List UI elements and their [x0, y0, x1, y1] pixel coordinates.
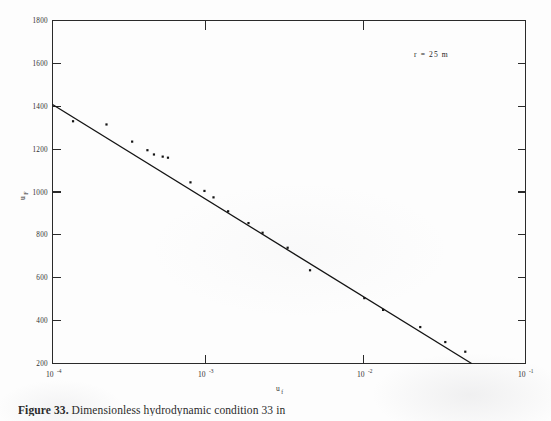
data-point [146, 149, 148, 151]
y-tick-label: 1000 [32, 189, 48, 197]
data-point [227, 210, 229, 212]
plot-frame [53, 21, 526, 364]
scatter-points-layer [72, 120, 466, 353]
data-point [247, 222, 249, 224]
y-axis-title: u F [18, 192, 29, 200]
data-point [212, 196, 214, 198]
y-tick-label: 1200 [32, 146, 48, 154]
x-tick-exponent: -4 [57, 368, 62, 374]
figure-caption-label: Figure 33. [18, 404, 69, 416]
data-point [309, 269, 311, 271]
x-tick-label-group: 10 -2 [357, 368, 373, 379]
y-axis-title-subscript: F [23, 192, 29, 195]
figure-caption: Figure 33. Dimensionless hydrodynamic co… [18, 404, 538, 416]
x-tick-base: 10 [46, 370, 54, 379]
y-tick-label: 1800 [32, 17, 48, 25]
y-tick-label: 400 [36, 317, 48, 325]
data-point [261, 232, 263, 234]
regression-fit-line [53, 105, 472, 364]
x-tick-base: 10 [198, 370, 206, 379]
x-axis-title-subscript: f [281, 389, 283, 395]
data-point [167, 157, 169, 159]
semilog-scatter-plot: 1800 1600 1400 1200 1000 800 600 400 200… [0, 0, 551, 421]
x-tick-label-group: 10 -1 [518, 368, 534, 379]
x-axis-tick-labels: 10 -4 10 -3 10 -2 10 -1 [46, 368, 534, 379]
x-axis-title-base: u [276, 384, 280, 393]
y-axis-ticks-left [53, 21, 61, 364]
data-point [72, 120, 74, 122]
x-axis-ticks-top [205, 21, 363, 30]
data-point [464, 351, 466, 353]
data-point [131, 141, 133, 143]
data-point [287, 247, 289, 249]
data-point [444, 341, 446, 343]
x-axis-ticks-bottom [205, 355, 363, 364]
y-axis-tick-labels: 1800 1600 1400 1200 1000 800 600 400 200 [32, 17, 48, 368]
data-point [153, 153, 155, 155]
data-point [382, 309, 384, 311]
figure-caption-text: Dimensionless hydrodynamic condition 33 … [72, 404, 286, 416]
x-tick-base: 10 [518, 370, 526, 379]
data-point [363, 297, 365, 299]
y-tick-label: 200 [36, 360, 48, 368]
data-point [419, 326, 421, 328]
x-tick-label-group: 10 -3 [198, 368, 214, 379]
plot-annotation: r = 25 m [414, 50, 449, 59]
x-axis-title: u f [276, 384, 283, 395]
y-tick-label: 600 [36, 274, 48, 282]
x-tick-exponent: -3 [209, 368, 214, 374]
y-tick-label: 1600 [32, 60, 48, 68]
x-tick-exponent: -2 [368, 368, 373, 374]
y-tick-label: 800 [36, 231, 48, 239]
x-tick-label-group: 10 -4 [46, 368, 62, 379]
data-point [105, 123, 107, 125]
data-point [162, 156, 164, 158]
figure-root: 1800 1600 1400 1200 1000 800 600 400 200… [0, 0, 551, 421]
data-point [189, 181, 191, 183]
y-tick-label: 1400 [32, 103, 48, 111]
y-axis-ticks-right [518, 63, 526, 320]
data-point [203, 190, 205, 192]
y-axis-title-base: u [18, 196, 27, 200]
x-tick-exponent: -1 [529, 368, 534, 374]
x-tick-base: 10 [357, 370, 365, 379]
